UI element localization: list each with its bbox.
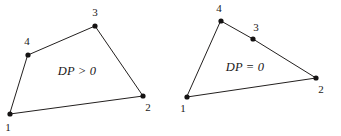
- left-vertex-label-3: 3: [92, 6, 98, 18]
- right-vertex-dot-3: [250, 36, 255, 41]
- right-vertex-label-3: 3: [253, 21, 259, 33]
- polygon-diagram: 1 2 3 4 DP > 0 1 2 3 4 DP = 0: [0, 0, 341, 136]
- right-vertex-label-1: 1: [180, 102, 186, 114]
- left-vertex-label-2: 2: [145, 101, 151, 113]
- right-polygon-group: 1 2 3 4 DP = 0: [180, 2, 324, 114]
- right-vertex-dot-4: [218, 18, 223, 23]
- right-vertex-label-2: 2: [318, 83, 324, 95]
- left-polygon-group: 1 2 3 4 DP > 0: [5, 6, 151, 133]
- left-region-label: DP > 0: [57, 64, 97, 78]
- right-vertex-dot-2: [313, 75, 318, 80]
- left-vertex-dot-2: [140, 93, 145, 98]
- left-vertex-dot-3: [92, 23, 97, 28]
- left-vertex-dot-1: [7, 111, 12, 116]
- right-vertex-label-4: 4: [216, 2, 222, 14]
- right-vertex-dot-1: [184, 94, 189, 99]
- left-vertex-label-1: 1: [5, 121, 11, 133]
- figure-canvas: 1 2 3 4 DP > 0 1 2 3 4 DP = 0: [0, 0, 341, 136]
- left-vertex-label-4: 4: [24, 35, 30, 47]
- right-region-label: DP = 0: [225, 60, 265, 74]
- left-vertex-dot-4: [25, 52, 30, 57]
